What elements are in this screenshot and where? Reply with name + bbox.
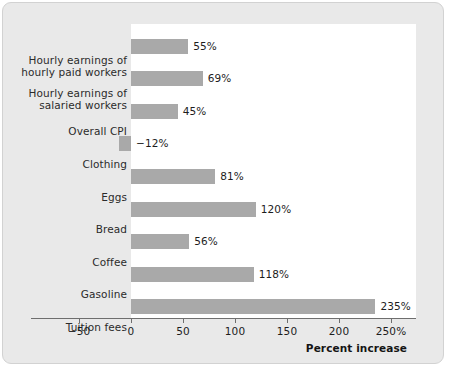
bar-value-label: 81%: [220, 170, 244, 182]
bar: [131, 234, 189, 249]
bar-value-label: −12%: [136, 137, 169, 149]
x-axis-tick-label: 50: [176, 325, 190, 337]
x-axis-tick: [391, 318, 392, 323]
bar: [131, 299, 375, 314]
bar: [131, 267, 254, 282]
bar-value-label: 120%: [261, 203, 291, 215]
category-label-line: Bread: [17, 224, 127, 236]
x-axis-tick: [287, 318, 288, 323]
bar-value-label: 45%: [183, 105, 207, 117]
x-axis-tick-label: 150: [277, 325, 297, 337]
category-label-line: Overall CPI: [17, 126, 127, 138]
category-axis: Hourly earnings ofhourly paid workersHou…: [17, 24, 127, 318]
category-label-line: Coffee: [17, 257, 127, 269]
chart-figure-panel: Hourly earnings ofhourly paid workersHou…: [2, 2, 444, 364]
category-label: Eggs: [17, 192, 127, 204]
category-label: Hourly earnings ofsalaried workers: [17, 88, 127, 111]
x-axis-tick: [235, 318, 236, 323]
bar-value-label: 55%: [193, 40, 217, 52]
bar: [131, 39, 188, 54]
x-axis-tick-label: 250%: [376, 325, 406, 337]
bar: [131, 104, 178, 119]
category-label-line: Eggs: [17, 192, 127, 204]
category-label-line: Hourly earnings of: [17, 88, 127, 100]
x-axis-tick-label: 100: [225, 325, 245, 337]
category-label-line: Clothing: [17, 159, 127, 171]
x-axis-tick: [183, 318, 184, 323]
bar-value-label: 56%: [194, 235, 218, 247]
category-label: Coffee: [17, 257, 127, 269]
bar: [131, 202, 256, 217]
x-axis-tick: [339, 318, 340, 323]
x-axis-tick-label: 0: [128, 325, 135, 337]
category-label: Overall CPI: [17, 126, 127, 138]
category-label-line: salaried workers: [17, 100, 127, 112]
bar-value-label: 69%: [208, 72, 232, 84]
category-label: Bread: [17, 224, 127, 236]
bar: [119, 136, 131, 151]
category-label: Hourly earnings ofhourly paid workers: [17, 55, 127, 78]
x-axis-tick: [79, 318, 80, 323]
x-axis-tick: [131, 318, 132, 323]
category-label-line: hourly paid workers: [17, 67, 127, 79]
category-label: Clothing: [17, 159, 127, 171]
x-axis-title: Percent increase: [306, 342, 407, 354]
bar: [131, 169, 215, 184]
bar: [131, 71, 203, 86]
bar-value-label: 118%: [259, 268, 289, 280]
category-label: Gasoline: [17, 289, 127, 301]
x-axis-line: [31, 318, 416, 319]
x-axis-tick-label: 200: [329, 325, 349, 337]
category-label-line: Gasoline: [17, 289, 127, 301]
bar-value-label: 235%: [380, 300, 410, 312]
x-axis-tick-label: −50: [68, 325, 90, 337]
